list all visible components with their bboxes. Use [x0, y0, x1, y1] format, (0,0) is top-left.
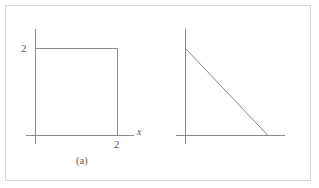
plot-b-hypotenuse [186, 49, 269, 136]
plot-a-y-tick-label: 2 [21, 43, 27, 54]
figure-container: 2 2 x (a) 2 2 x (b) [0, 0, 319, 188]
plot-a-x-axis-name: x [137, 127, 141, 137]
plot-a: 2 2 x (a) [0, 0, 160, 188]
plot-b: 2 2 x (b) [150, 0, 319, 188]
plot-a-caption: (a) [76, 156, 88, 167]
plot-a-x-tick-label: 2 [114, 139, 120, 150]
plot-b-graphics [150, 0, 319, 188]
